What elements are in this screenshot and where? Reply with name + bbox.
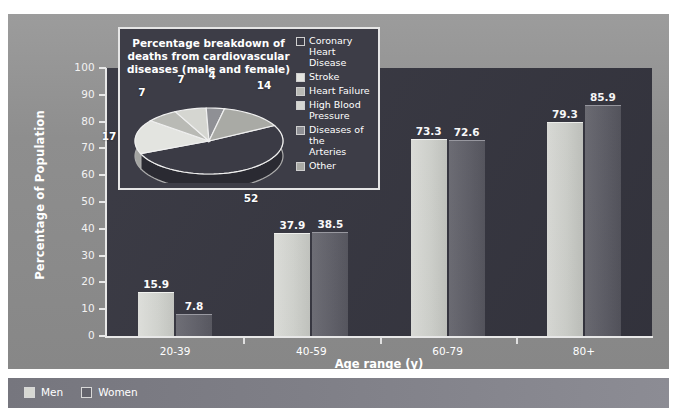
bar-value-label: 38.5 [300,218,360,230]
bar-men-60-79 [411,139,447,336]
legend-swatch [24,387,35,398]
bar-women-80+ [585,105,621,336]
x-axis-tick [516,338,518,344]
y-axis-tick-label: 60 [47,168,95,180]
legend-item-women[interactable]: Women [81,386,138,398]
bar-value-label: 85.9 [573,91,633,103]
y-axis-tick [99,67,106,69]
pie-legend-swatch [296,73,305,82]
y-axis-tick [99,255,106,257]
inset-pie-legend: Coronary HeartDiseaseStrokeHeart Failure… [296,35,380,174]
y-axis-tick [99,281,106,283]
legend-swatch [81,387,92,398]
pie-legend-item[interactable]: Other [296,160,380,171]
x-axis-tick [380,338,382,344]
inset-pie-title-line: Percentage breakdown of [132,37,284,49]
pie-legend-item[interactable]: Stroke [296,71,380,82]
x-axis-tick-label: 40-59 [251,345,371,357]
bar-women-60-79 [449,140,485,336]
pie-legend-item[interactable]: High BloodPressure [296,99,380,121]
x-axis-tick-label: 60-79 [388,345,508,357]
bar-men-20-39 [138,292,174,336]
y-axis-tick-label: 90 [47,88,95,100]
pie-legend-swatch [296,126,305,135]
bar-men-80+ [547,122,583,336]
pie-legend-label: Other [309,160,336,171]
y-axis-tick [99,121,106,123]
legend-label: Women [98,386,138,398]
pie-legend-label: Heart Failure [309,85,370,96]
pie-legend-swatch [296,101,305,110]
x-axis-tick-label: 20-39 [115,345,235,357]
y-axis-tick [99,308,106,310]
bottom-legend: MenWomen [24,386,138,398]
bar-men-40-59 [274,233,310,336]
bar-value-label: 7.8 [164,300,224,312]
x-axis-title: Age range (y) [105,357,653,371]
y-axis-tick [99,147,106,149]
y-axis-tick-label: 20 [47,275,95,287]
pie-legend-swatch [296,37,305,46]
pie-slice-value-label: 7 [138,86,145,98]
y-axis-tick [99,201,106,203]
y-axis-tick-label: 80 [47,115,95,127]
pie-legend-item[interactable]: Diseases of theArteries [296,124,380,157]
y-axis-tick-label: 100 [47,61,95,73]
y-axis-tick [99,94,106,96]
pie-top-face [135,108,283,174]
y-axis-title: Percentage of Population [33,95,47,295]
y-axis-tick-label: 10 [47,302,95,314]
legend-item-men[interactable]: Men [24,386,63,398]
y-axis-tick-label: 40 [47,222,95,234]
pie-legend-label: High BloodPressure [309,99,361,121]
pie-legend-item[interactable]: Heart Failure [296,85,380,96]
bar-women-40-59 [312,232,348,336]
y-axis-tick-label: 70 [47,141,95,153]
cardiovascular-disease-figure: 15.97.837.938.573.372.679.385.9 01020304… [0,0,677,416]
pie-legend-label: Coronary HeartDisease [309,35,380,68]
inset-pie-graphic: 521777414 [128,79,290,183]
y-axis-tick-label: 50 [47,195,95,207]
pie-svg [128,79,290,183]
bar-value-label: 15.9 [126,278,186,290]
pie-slice-value-label: 17 [102,130,117,142]
pie-legend-label: Diseases of theArteries [309,124,380,157]
pie-slice-value-label: 7 [177,73,184,85]
y-axis-tick [99,228,106,230]
x-axis-tick [243,338,245,344]
pie-legend-swatch [296,87,305,96]
pie-legend-swatch [296,162,305,171]
bar-women-20-39 [176,314,212,336]
bar-value-label: 72.6 [437,126,497,138]
pie-slice-value-label: 52 [244,192,259,204]
inset-pie-title-line: deaths from cardiovascular [127,50,289,62]
legend-label: Men [41,386,63,398]
inset-pie-panel: Percentage breakdown ofdeaths from cardi… [118,27,380,190]
y-axis-tick [99,335,106,337]
pie-legend-label: Stroke [309,71,339,82]
y-axis-tick-label: 0 [47,329,95,341]
y-axis-tick-label: 30 [47,249,95,261]
pie-slice-value-label: 4 [208,69,215,81]
pie-legend-item[interactable]: Coronary HeartDisease [296,35,380,68]
y-axis-line [105,68,107,338]
x-axis-tick-label: 80+ [524,345,644,357]
y-axis-tick [99,174,106,176]
pie-slice-value-label: 14 [257,79,272,91]
